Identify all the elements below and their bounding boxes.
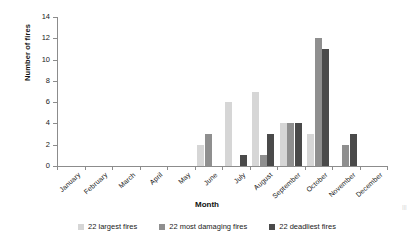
y-tick-label: 2 bbox=[46, 141, 50, 149]
x-axis-title: Month bbox=[0, 200, 414, 209]
legend-label: 22 deadliest fires bbox=[279, 222, 336, 231]
y-tick-label: 14 bbox=[42, 13, 50, 21]
bar bbox=[315, 38, 322, 166]
bar bbox=[295, 123, 302, 166]
x-tick-label-february: February bbox=[83, 171, 109, 195]
bar-group bbox=[140, 17, 168, 166]
x-tick-label-july: July bbox=[232, 171, 246, 185]
x-tick-label-september: September bbox=[271, 171, 302, 200]
bar bbox=[322, 49, 329, 166]
bar bbox=[342, 145, 349, 166]
x-tick-label-may: May bbox=[177, 171, 192, 185]
y-tick-label: 6 bbox=[46, 98, 50, 106]
bar-group bbox=[167, 17, 195, 166]
bar-group bbox=[57, 17, 85, 166]
legend-swatch bbox=[159, 224, 165, 230]
x-tick bbox=[277, 166, 278, 170]
bar bbox=[205, 134, 212, 166]
x-tick bbox=[112, 166, 113, 170]
x-tick-label-august: August bbox=[253, 171, 274, 191]
x-tick-label-november: November bbox=[327, 171, 356, 198]
bar bbox=[287, 123, 294, 166]
chart-legend: 22 largest fires22 most damaging fires22… bbox=[0, 222, 414, 231]
x-tick bbox=[222, 166, 223, 170]
y-tick-label: 8 bbox=[46, 77, 50, 85]
bar-group bbox=[332, 17, 360, 166]
legend-label: 22 largest fires bbox=[88, 222, 137, 231]
x-tick-label-january: January bbox=[58, 171, 82, 193]
bar bbox=[267, 134, 274, 166]
x-tick-label-june: June bbox=[203, 171, 219, 187]
bar bbox=[280, 123, 287, 166]
legend-label: 22 most damaging fires bbox=[169, 222, 247, 231]
plot-area: 02468101214 JanuaryFebruaryMarchAprilMay… bbox=[57, 17, 387, 166]
y-tick-label: 4 bbox=[46, 120, 50, 128]
bar-group bbox=[305, 17, 333, 166]
y-tick-label: 12 bbox=[42, 35, 50, 43]
x-tick bbox=[167, 166, 168, 170]
bar bbox=[307, 134, 314, 166]
bar-group bbox=[85, 17, 113, 166]
bar bbox=[350, 134, 357, 166]
x-tick bbox=[195, 166, 196, 170]
bar bbox=[225, 102, 232, 166]
bar bbox=[252, 92, 259, 167]
x-tick bbox=[332, 166, 333, 170]
bar-group bbox=[360, 17, 388, 166]
y-tick-label: 10 bbox=[42, 56, 50, 64]
chart-figure: Number of fires 02468101214 JanuaryFebru… bbox=[0, 0, 414, 237]
legend-item: 22 deadliest fires bbox=[269, 222, 336, 231]
legend-item: 22 largest fires bbox=[78, 222, 137, 231]
y-axis-title: Number of fires bbox=[23, 0, 32, 108]
bar-group bbox=[222, 17, 250, 166]
x-tick-label-october: October bbox=[305, 171, 329, 193]
bar-group bbox=[250, 17, 278, 166]
x-tick-label-march: March bbox=[117, 171, 137, 190]
edge-caption: ||| bbox=[402, 203, 414, 211]
x-tick bbox=[85, 166, 86, 170]
bar-group bbox=[277, 17, 305, 166]
bar bbox=[240, 155, 247, 166]
x-tick bbox=[140, 166, 141, 170]
bar-group bbox=[112, 17, 140, 166]
legend-item: 22 most damaging fires bbox=[159, 222, 247, 231]
bar-group bbox=[195, 17, 223, 166]
legend-swatch bbox=[78, 224, 84, 230]
x-tick-label-december: December bbox=[355, 171, 384, 198]
bar bbox=[197, 145, 204, 166]
x-tick bbox=[305, 166, 306, 170]
x-tick bbox=[250, 166, 251, 170]
x-tick bbox=[57, 166, 58, 170]
bar bbox=[260, 155, 267, 166]
y-tick-label: 0 bbox=[46, 162, 50, 170]
legend-swatch bbox=[269, 224, 275, 230]
x-tick-label-april: April bbox=[149, 171, 164, 186]
x-tick bbox=[360, 166, 361, 170]
x-tick bbox=[387, 166, 388, 170]
